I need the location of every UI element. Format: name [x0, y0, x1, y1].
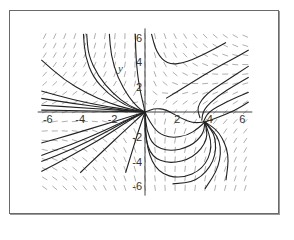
field-arrow	[62, 140, 68, 141]
field-arrow	[184, 138, 186, 144]
field-arrow	[74, 43, 76, 49]
field-arrow	[232, 64, 238, 65]
field-arrow	[104, 52, 106, 58]
field-arrow	[124, 185, 126, 191]
field-arrow	[234, 176, 236, 182]
field-arrow	[83, 72, 86, 77]
field-arrow	[242, 45, 248, 47]
field-arrow	[233, 119, 237, 123]
field-arrow	[124, 81, 126, 86]
field-arrow	[83, 62, 86, 67]
field-arrow	[242, 55, 248, 56]
field-arrow	[165, 128, 166, 134]
field-arrow	[52, 101, 57, 104]
field-arrow	[94, 52, 96, 58]
field-arrow	[244, 138, 247, 143]
field-arrow	[62, 176, 67, 180]
field-arrow	[113, 147, 116, 152]
field-arrow	[73, 186, 77, 190]
field-arrow	[192, 92, 198, 94]
field-arrow	[114, 166, 117, 171]
field-arrow	[93, 185, 96, 190]
field-arrow	[53, 43, 56, 48]
field-arrow	[234, 166, 236, 172]
field-arrow	[94, 43, 96, 49]
field-arrow	[54, 33, 56, 38]
field-arrow	[173, 72, 178, 76]
field-arrow	[113, 157, 116, 162]
field-arrow	[185, 166, 186, 172]
field-arrow	[103, 139, 108, 143]
field-arrow	[243, 129, 247, 134]
field-arrow	[184, 34, 187, 39]
field-arrow	[92, 130, 98, 132]
field-arrow	[112, 101, 118, 103]
y-tick-label: -4	[132, 156, 142, 168]
x-tick-label: 4	[207, 113, 213, 125]
field-arrow	[203, 34, 207, 38]
field-arrow	[93, 81, 97, 86]
field-arrow	[193, 43, 197, 47]
field-arrow	[42, 101, 47, 104]
field-arrow	[192, 73, 198, 75]
field-arrow	[213, 101, 218, 104]
field-arrow	[72, 131, 78, 132]
field-arrow	[43, 43, 46, 48]
y-tick-label: 4	[136, 56, 142, 68]
field-arrow	[104, 43, 105, 49]
field-arrow	[63, 52, 66, 57]
field-arrow	[213, 44, 218, 47]
y-tick-label: -2	[132, 131, 142, 143]
field-arrow	[153, 100, 156, 105]
field-arrow	[43, 33, 46, 38]
field-arrow	[193, 53, 198, 57]
field-arrow	[73, 52, 76, 57]
field-arrow	[212, 83, 218, 84]
field-arrow	[114, 43, 115, 49]
y-tick-label: -6	[132, 180, 142, 192]
field-arrow	[52, 186, 57, 190]
field-arrow	[135, 71, 136, 77]
field-arrow	[163, 82, 168, 86]
field-arrow	[222, 54, 228, 56]
field-arrow	[114, 52, 115, 58]
field-arrow	[103, 176, 106, 181]
field-arrow	[242, 83, 248, 85]
field-arrow	[73, 62, 76, 67]
field-arrow	[213, 119, 217, 124]
field-arrow	[52, 158, 57, 160]
field-arrow	[212, 64, 218, 66]
field-arrow	[234, 157, 236, 162]
field-arrow	[223, 34, 228, 37]
x-tick-label: -4	[75, 113, 85, 125]
field-arrow	[124, 71, 126, 77]
field-arrow	[164, 43, 166, 49]
field-arrow	[224, 128, 227, 133]
field-arrow	[154, 71, 156, 77]
field-arrow	[42, 149, 48, 150]
field-arrow	[202, 83, 208, 84]
x-tick-label: 6	[239, 113, 245, 125]
field-arrow	[233, 35, 238, 38]
field-arrow	[243, 35, 248, 37]
field-arrow	[164, 52, 166, 57]
field-arrow	[93, 167, 97, 172]
field-arrow	[175, 137, 176, 143]
field-arrow	[124, 176, 126, 182]
field-arrow	[43, 53, 46, 58]
field-arrow	[154, 62, 156, 68]
field-arrow	[93, 176, 97, 181]
field-arrow	[154, 33, 155, 39]
field-arrow	[115, 33, 116, 39]
field-arrow	[92, 121, 98, 122]
field-arrow	[234, 147, 237, 152]
field-arrow	[63, 43, 66, 48]
field-arrow	[244, 147, 247, 152]
field-arrow	[42, 177, 47, 180]
field-arrow	[234, 185, 236, 191]
x-tick-label: -6	[43, 113, 53, 125]
field-arrow	[164, 62, 167, 67]
field-arrow	[42, 82, 46, 86]
field-arrow	[193, 63, 198, 66]
field-arrow	[203, 101, 208, 104]
